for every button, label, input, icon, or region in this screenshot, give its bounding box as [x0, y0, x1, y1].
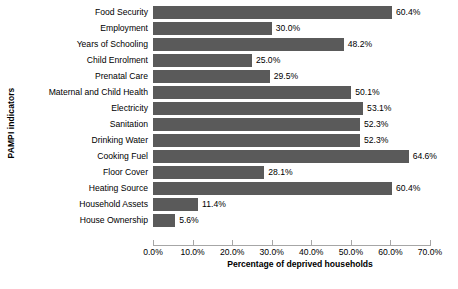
bar — [153, 134, 360, 147]
x-axis-tick-label: 30.0% — [260, 247, 284, 257]
x-axis-title-label: Percentage of deprived households — [227, 259, 373, 269]
bar — [153, 54, 252, 67]
x-axis-line — [153, 245, 431, 246]
bar-value-label: 60.4% — [392, 4, 420, 20]
x-axis-tick-label: 40.0% — [299, 247, 323, 257]
bar-value-label: 11.4% — [198, 196, 226, 212]
category-label: Child Enrolment — [22, 52, 153, 68]
bar-track: 50.1% — [153, 84, 458, 100]
bar-row: Employment30.0% — [22, 20, 458, 36]
bar — [153, 86, 351, 99]
bar-row: Drinking Water52.3% — [22, 132, 458, 148]
bar-row: Household Assets11.4% — [22, 196, 458, 212]
bar-value-label: 48.2% — [344, 36, 372, 52]
x-axis-tick-label: 20.0% — [220, 247, 244, 257]
bar-row: Maternal and Child Health50.1% — [22, 84, 458, 100]
bar-rows: Food Security60.4%Employment30.0%Years o… — [22, 4, 458, 228]
bar — [153, 118, 360, 131]
bar — [153, 182, 392, 195]
bar-row: Heating Source60.4% — [22, 180, 458, 196]
category-label: Household Assets — [22, 196, 153, 212]
bar-track: 5.6% — [153, 212, 458, 228]
bar — [153, 214, 175, 227]
x-axis-title: Percentage of deprived households — [22, 259, 458, 269]
bar-track: 60.4% — [153, 180, 458, 196]
bar — [153, 102, 363, 115]
bar — [153, 38, 344, 51]
category-label: House Ownership — [22, 212, 153, 228]
category-label: Drinking Water — [22, 132, 153, 148]
bar-track: 64.6% — [153, 148, 458, 164]
bar-value-label: 5.6% — [175, 212, 199, 228]
bar-value-label: 30.0% — [272, 20, 300, 36]
x-axis-tick-label: 70.0% — [418, 247, 442, 257]
bar-chart: PAMPI indicators Food Security60.4%Emplo… — [0, 0, 458, 289]
bar-value-label: 52.3% — [360, 132, 388, 148]
bar — [153, 166, 264, 179]
x-axis-tick — [193, 240, 194, 245]
x-axis-tick — [351, 240, 352, 245]
x-axis-tick — [311, 240, 312, 245]
bar — [153, 22, 272, 35]
bar-value-label: 64.6% — [409, 148, 437, 164]
category-label: Cooking Fuel — [22, 148, 153, 164]
category-label: Sanitation — [22, 116, 153, 132]
bar — [153, 70, 270, 83]
bar-value-label: 50.1% — [351, 84, 379, 100]
x-axis-tick — [430, 240, 431, 245]
bar-track: 30.0% — [153, 20, 458, 36]
bar-track: 52.3% — [153, 116, 458, 132]
bar-row: Cooking Fuel64.6% — [22, 148, 458, 164]
bar-row: Child Enrolment25.0% — [22, 52, 458, 68]
bar-track: 29.5% — [153, 68, 458, 84]
category-label: Food Security — [22, 4, 153, 20]
category-label: Employment — [22, 20, 153, 36]
bar — [153, 6, 392, 19]
bar-value-label: 29.5% — [270, 68, 298, 84]
bar-track: 25.0% — [153, 52, 458, 68]
bar — [153, 198, 198, 211]
bar-row: Electricity53.1% — [22, 100, 458, 116]
bar-value-label: 28.1% — [264, 164, 292, 180]
y-axis-title: PAMPI indicators — [0, 0, 22, 245]
bar-track: 52.3% — [153, 132, 458, 148]
bar-row: Prenatal Care29.5% — [22, 68, 458, 84]
x-axis-tick-label: 10.0% — [180, 247, 204, 257]
bar-value-label: 25.0% — [252, 52, 280, 68]
x-axis-tick — [232, 240, 233, 245]
bar-track: 60.4% — [153, 4, 458, 20]
bar-value-label: 53.1% — [363, 100, 391, 116]
bar-track: 48.2% — [153, 36, 458, 52]
plot-area: Food Security60.4%Employment30.0%Years o… — [22, 4, 458, 245]
bar-value-label: 60.4% — [392, 180, 420, 196]
x-axis-tick-label: 0.0% — [143, 247, 163, 257]
bar-track: 11.4% — [153, 196, 458, 212]
bar-value-label: 52.3% — [360, 116, 388, 132]
bar-row: Floor Cover28.1% — [22, 164, 458, 180]
x-axis-tick — [272, 240, 273, 245]
category-label: Electricity — [22, 100, 153, 116]
x-axis-tick-label: 50.0% — [339, 247, 363, 257]
bar-row: Sanitation52.3% — [22, 116, 458, 132]
x-axis-tick — [153, 240, 154, 245]
bar — [153, 150, 409, 163]
category-label: Heating Source — [22, 180, 153, 196]
bar-track: 28.1% — [153, 164, 458, 180]
category-label: Years of Schooling — [22, 36, 153, 52]
bar-row: Years of Schooling48.2% — [22, 36, 458, 52]
bar-track: 53.1% — [153, 100, 458, 116]
category-label: Maternal and Child Health — [22, 84, 153, 100]
bar-row: Food Security60.4% — [22, 4, 458, 20]
x-axis-ticks — [153, 240, 431, 245]
x-axis-tick — [390, 240, 391, 245]
bar-row: House Ownership5.6% — [22, 212, 458, 228]
x-axis-tick-label: 60.0% — [378, 247, 402, 257]
y-axis-title-label: PAMPI indicators — [6, 87, 16, 158]
category-label: Prenatal Care — [22, 68, 153, 84]
category-label: Floor Cover — [22, 164, 153, 180]
